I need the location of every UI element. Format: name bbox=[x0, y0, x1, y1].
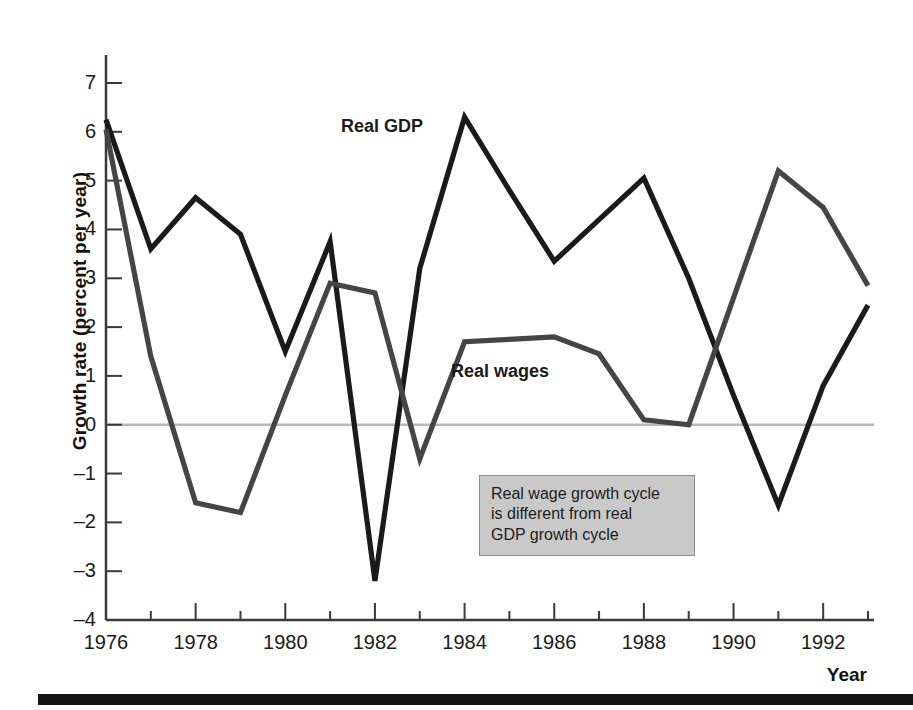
bottom-divider-rule bbox=[38, 694, 913, 705]
y-axis-title: Growth rate (percent per year) bbox=[69, 31, 91, 591]
y-tick-label: 2 bbox=[52, 316, 96, 336]
y-tick-label: 3 bbox=[52, 267, 96, 287]
series-line-real-wages bbox=[106, 129, 868, 512]
x-tick-label: 1992 bbox=[778, 632, 868, 652]
x-tick-label: 1982 bbox=[330, 632, 420, 652]
annotation-line-3: GDP growth cycle bbox=[491, 525, 683, 545]
x-tick-label: 1976 bbox=[61, 632, 151, 652]
y-tick-label: –1 bbox=[52, 463, 96, 483]
series-label-real-gdp: Real GDP bbox=[341, 116, 423, 137]
annotation-line-1: Real wage growth cycle bbox=[491, 484, 683, 504]
y-tick-label: –4 bbox=[52, 609, 96, 629]
chart-figure: Growth rate (percent per year) 76543210–… bbox=[0, 0, 913, 710]
y-tick-label: 4 bbox=[52, 218, 96, 238]
x-tick-label: 1984 bbox=[420, 632, 510, 652]
y-tick-label: 6 bbox=[52, 121, 96, 141]
x-tick-label: 1986 bbox=[509, 632, 599, 652]
x-tick-label: 1978 bbox=[151, 632, 241, 652]
y-tick-label: –3 bbox=[52, 560, 96, 580]
x-tick-label: 1980 bbox=[240, 632, 330, 652]
y-tick-label: 1 bbox=[52, 365, 96, 385]
x-tick-label: 1988 bbox=[599, 632, 689, 652]
x-axis-title: Year bbox=[827, 664, 867, 686]
series-label-real-wages: Real wages bbox=[451, 361, 549, 382]
annotation-callout: Real wage growth cycle is different from… bbox=[479, 475, 695, 556]
y-tick-label: 5 bbox=[52, 170, 96, 190]
x-tick-label: 1990 bbox=[689, 632, 779, 652]
annotation-line-2: is different from real bbox=[491, 504, 683, 524]
y-tick-label: 0 bbox=[52, 414, 96, 434]
plot-area bbox=[0, 0, 913, 710]
y-tick-label: –2 bbox=[52, 511, 96, 531]
y-tick-label: 7 bbox=[52, 72, 96, 92]
